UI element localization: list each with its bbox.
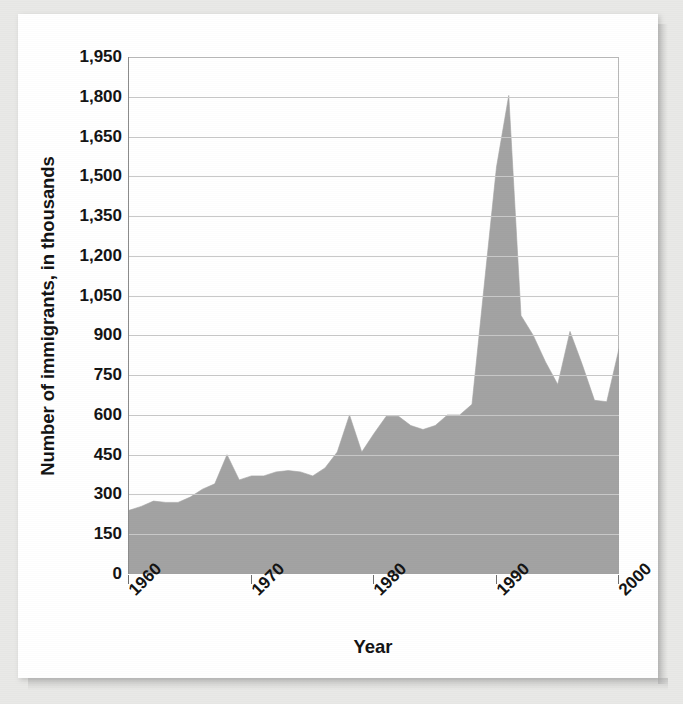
gridline-horizontal (129, 335, 619, 336)
gridline-horizontal (129, 216, 619, 217)
gridline-horizontal (129, 296, 619, 297)
x-axis-title: Year (128, 636, 618, 658)
y-axis-tick-label: 1,200 (56, 246, 122, 266)
gridline-horizontal (129, 176, 619, 177)
y-axis-tick-label: 1,650 (56, 127, 122, 147)
y-axis-tick-label: 450 (56, 445, 122, 465)
y-axis-tick-label: 1,350 (56, 206, 122, 226)
y-axis-tick-label: 1,950 (56, 47, 122, 67)
y-axis-tick-label: 600 (56, 405, 122, 425)
area-series-immigrants (129, 57, 619, 574)
area-chart-figure: Number of immigrants, in thousands 01503… (0, 0, 683, 704)
gridline-horizontal (129, 455, 619, 456)
gridline-horizontal (129, 97, 619, 98)
plot-area (128, 57, 619, 574)
y-axis-tick-label: 1,800 (56, 87, 122, 107)
y-axis-tick-label-group: 01503004506007509001,0501,2001,3501,5001… (56, 0, 122, 704)
gridline-horizontal (129, 256, 619, 257)
y-axis-tick-label: 750 (56, 365, 122, 385)
y-axis-tick-label: 150 (56, 524, 122, 544)
y-axis-tick-label: 0 (56, 564, 122, 584)
gridline-horizontal (129, 375, 619, 376)
gridline-horizontal (129, 415, 619, 416)
y-axis-tick-label: 1,500 (56, 166, 122, 186)
y-axis-tick-label: 300 (56, 484, 122, 504)
gridline-horizontal (129, 137, 619, 138)
gridline-horizontal (129, 534, 619, 535)
y-axis-tick-label: 900 (56, 325, 122, 345)
gridline-horizontal (129, 494, 619, 495)
y-axis-tick-label: 1,050 (56, 286, 122, 306)
x-axis-tick-label: 2000 (615, 559, 656, 600)
